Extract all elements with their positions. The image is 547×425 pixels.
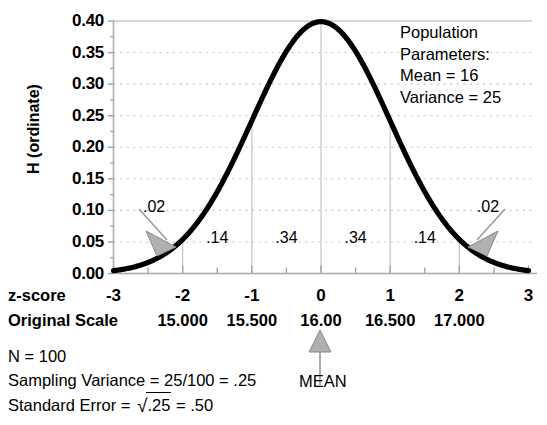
y-axis-tick-label: 0.00 — [34, 264, 104, 284]
figure-notes: N = 100 Sampling Variance = 25/100 = .25… — [8, 344, 256, 416]
proportion-label: .02 — [143, 198, 165, 216]
y-axis-tick-label: 0.40 — [34, 11, 104, 31]
x-axis-tick-label: -2 — [175, 286, 190, 306]
note-standard-error: Standard Error = √.25 = .50 — [8, 392, 256, 416]
population-parameters-annotation: Population Parameters: Mean = 16 Varianc… — [400, 22, 501, 108]
radicand: .25 — [146, 392, 171, 417]
note-sampling-variance: Sampling Variance = 25/100 = .25 — [8, 368, 256, 392]
x-axis-tick-marks — [114, 266, 529, 274]
annotation-line: Mean = 16 — [400, 65, 501, 87]
right-tail-callout-arrow — [468, 209, 505, 256]
x-axis-tick-label: -1 — [244, 286, 259, 306]
y-axis-tick-label: 0.35 — [34, 43, 104, 63]
proportion-label: .34 — [275, 229, 297, 247]
y-axis-tick-marks — [108, 21, 114, 274]
y-axis-title: H (ordinate) — [25, 49, 43, 209]
radical-icon: √ — [137, 396, 147, 415]
x-axis-tick-label: 1 — [385, 286, 394, 306]
chart-figure: 0.000.050.100.150.200.250.300.350.40 H (… — [0, 0, 547, 425]
original-scale-tick-label: 15.500 — [227, 311, 277, 330]
original-scale-tick-label: 16.00 — [300, 311, 341, 330]
left-tail-callout-arrow — [139, 209, 176, 256]
y-axis-tick-label: 0.10 — [34, 200, 104, 220]
standard-error-prefix: Standard Error = — [8, 396, 135, 414]
annotation-line: Variance = 25 — [400, 87, 501, 109]
y-axis-tick-label: 0.05 — [34, 232, 104, 252]
mean-marker-label: MEAN — [299, 372, 347, 391]
y-axis-tick-label: 0.20 — [34, 137, 104, 157]
note-sample-size: N = 100 — [8, 344, 256, 368]
x-axis-tick-label: -3 — [106, 286, 121, 306]
zscore-row-label: z-score — [8, 286, 66, 305]
original-scale-tick-label: 16.500 — [365, 311, 415, 330]
annotation-line: Population — [400, 22, 501, 44]
original-scale-tick-label: 17.000 — [434, 311, 484, 330]
x-axis-tick-label: 2 — [455, 286, 464, 306]
proportion-label: .02 — [477, 198, 499, 216]
proportion-label: .34 — [344, 229, 366, 247]
annotation-line: Parameters: — [400, 44, 501, 66]
y-axis-tick-label: 0.30 — [34, 74, 104, 94]
y-axis-tick-label: 0.25 — [34, 106, 104, 126]
standard-error-suffix: = .50 — [171, 396, 213, 414]
x-axis-tick-label: 0 — [316, 286, 325, 306]
proportion-label: .14 — [206, 229, 228, 247]
original-scale-row-label: Original Scale — [8, 311, 118, 330]
proportion-label: .14 — [414, 229, 436, 247]
y-axis-tick-label: 0.15 — [34, 169, 104, 189]
original-scale-tick-label: 15.000 — [157, 311, 207, 330]
x-axis-tick-label: 3 — [524, 286, 533, 306]
square-root-expression: √.25 — [135, 392, 171, 417]
